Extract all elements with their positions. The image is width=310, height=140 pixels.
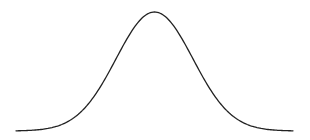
chart-canvas (0, 0, 310, 140)
normal-distribution-curve (16, 12, 293, 131)
bell-curve-chart (0, 0, 310, 140)
